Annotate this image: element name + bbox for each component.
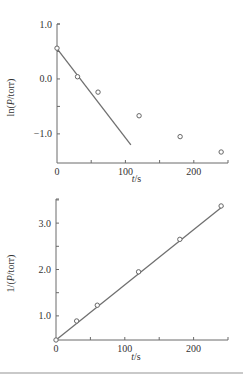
data-point: [219, 150, 223, 154]
data-point: [178, 134, 182, 138]
y-axis-label-variable: P: [5, 275, 16, 282]
figure: 01002001.00.0−1.0t/sln(P/torr) 01002003.…: [0, 0, 243, 386]
data-point: [137, 114, 141, 118]
y-tick-label: 0.0: [40, 73, 53, 84]
data-point: [54, 338, 58, 342]
plot-ln-pressure: 01002001.00.0−1.0t/sln(P/torr): [5, 19, 228, 185]
y-axis-label-variable: P: [5, 99, 16, 106]
data-point: [74, 319, 78, 323]
fit-line: [57, 49, 131, 145]
y-tick-label: 1.0: [40, 19, 53, 30]
x-tick-label: 100: [118, 166, 133, 177]
y-axis-label-part: ln(: [5, 105, 17, 117]
x-axis-label-unit: /s: [135, 173, 142, 184]
x-axis-label: t/s: [131, 351, 141, 362]
plot-inverse-pressure: 01002003.02.01.0t/s1/(P/torr): [5, 199, 228, 362]
data-point: [75, 75, 79, 79]
data-point: [178, 237, 182, 241]
data-point: [219, 204, 223, 208]
page-divider: [0, 372, 243, 374]
y-tick-label: −1.0: [34, 128, 52, 139]
y-axis-label-part: /torr): [5, 255, 17, 276]
y-axis-label-part: /torr): [5, 79, 17, 100]
x-axis-label: t/s: [132, 173, 142, 184]
data-point: [96, 90, 100, 94]
y-axis-label: 1/(P/torr): [5, 255, 17, 293]
data-point: [95, 303, 99, 307]
y-tick-label: 3.0: [39, 218, 52, 229]
y-axis-label: ln(P/torr): [5, 79, 17, 117]
data-point: [136, 270, 140, 274]
x-tick-label: 200: [186, 166, 201, 177]
y-tick-label: 2.0: [39, 264, 52, 275]
x-tick-label: 0: [54, 343, 59, 354]
y-tick-label: 1.0: [39, 310, 52, 321]
data-point: [55, 46, 59, 50]
x-tick-label: 0: [55, 166, 60, 177]
x-tick-label: 200: [186, 343, 201, 354]
x-axis-label-unit: /s: [134, 351, 141, 362]
y-axis-label-part: 1/(: [5, 281, 17, 293]
x-tick-label: 100: [117, 343, 132, 354]
